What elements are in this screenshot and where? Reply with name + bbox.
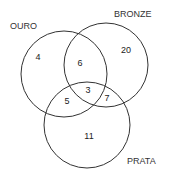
label-ouro: OURO xyxy=(10,21,37,31)
label-prata: PRATA xyxy=(127,156,156,166)
value-ouro-prata: 5 xyxy=(64,96,69,106)
venn-diagram: OURO BRONZE PRATA 4 20 11 6 5 7 3 xyxy=(0,0,171,180)
value-prata-only: 11 xyxy=(84,131,93,141)
label-bronze: BRONZE xyxy=(114,9,152,19)
value-ouro-only: 4 xyxy=(35,52,40,62)
value-bronze-prata: 7 xyxy=(104,93,109,103)
value-ouro-bronze: 6 xyxy=(77,58,82,68)
value-bronze-only: 20 xyxy=(121,45,131,55)
value-all: 3 xyxy=(85,85,90,95)
